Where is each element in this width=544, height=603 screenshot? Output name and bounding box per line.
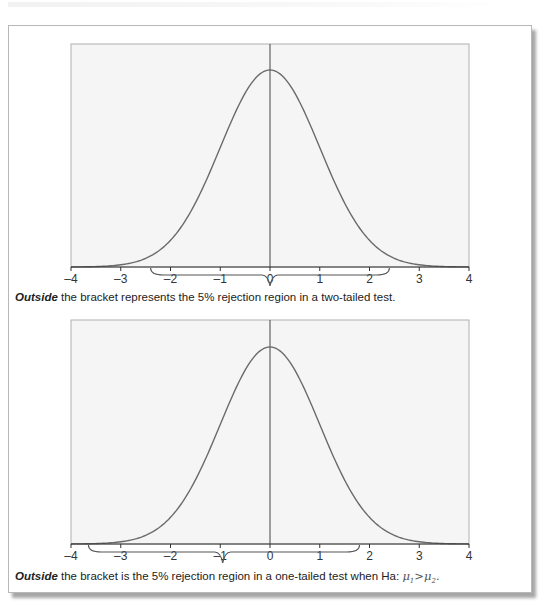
caption-text: the bracket is the 5% rejection region i… bbox=[58, 570, 403, 582]
x-tick-label: 1 bbox=[316, 272, 323, 286]
caption-one-tailed: Outside the bracket is the 5% rejection … bbox=[15, 569, 440, 585]
x-tick-label: 2 bbox=[366, 549, 373, 563]
x-tick-label: –3 bbox=[114, 549, 128, 563]
x-tick-label: 4 bbox=[466, 272, 473, 286]
x-tick-label: 3 bbox=[416, 549, 423, 563]
caption-text: the bracket represents the 5% rejection … bbox=[58, 291, 396, 303]
x-tick-label: 1 bbox=[316, 549, 323, 563]
caption-emphasis: Outside bbox=[15, 570, 58, 582]
x-tick-label: –4 bbox=[64, 272, 78, 286]
hypothesis-math: μ1>μ2. bbox=[402, 569, 439, 583]
x-tick-label: 0 bbox=[267, 549, 274, 563]
x-tick-label: 3 bbox=[416, 272, 423, 286]
x-tick-label: –2 bbox=[164, 272, 178, 286]
x-tick-label: 2 bbox=[366, 272, 373, 286]
x-tick-label: 4 bbox=[466, 549, 473, 563]
x-tick-label: –3 bbox=[114, 272, 128, 286]
x-tick-label: –4 bbox=[64, 549, 78, 563]
caption-two-tailed: Outside the bracket represents the 5% re… bbox=[15, 291, 395, 303]
caption-emphasis: Outside bbox=[15, 291, 58, 303]
x-tick-label: –1 bbox=[214, 272, 228, 286]
x-tick-label: –2 bbox=[164, 549, 178, 563]
